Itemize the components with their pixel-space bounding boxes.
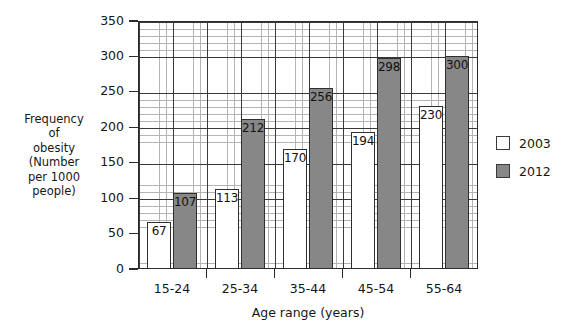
x-axis-tick-mark [274, 269, 275, 278]
bars-layer: 67107113212170256194298230300 [138, 21, 478, 269]
bar-value-label: 230 [420, 109, 442, 122]
x-axis-tick-mark [206, 269, 207, 278]
x-axis-title: Age range (years) [138, 305, 478, 320]
y-axis-tick-label: 50 [108, 225, 124, 240]
bar-group: 113212 [206, 21, 274, 269]
bar-value-label: 300 [446, 59, 468, 72]
bar-2012-25-34: 212 [241, 119, 265, 269]
y-axis-tick-mark [129, 20, 138, 21]
gray-square-icon [496, 164, 510, 178]
y-axis-tick-mark [129, 162, 138, 163]
bar-value-label: 67 [148, 225, 170, 238]
x-axis-category-label: 55-64 [410, 281, 478, 296]
bar-value-label: 107 [174, 196, 196, 209]
bar-2012-55-64: 300 [445, 56, 469, 269]
chart-legend: 20032012 [496, 129, 558, 185]
y-axis-tick-mark [129, 198, 138, 199]
bar-value-label: 212 [242, 122, 264, 135]
y-axis-tick-label: 350 [100, 13, 124, 28]
y-axis-tick-label: 0 [116, 261, 124, 276]
bar-value-label: 113 [216, 192, 238, 205]
y-axis-tick-mark [129, 56, 138, 57]
legend-item-2003: 2003 [496, 129, 558, 157]
x-axis-category-label: 25-34 [206, 281, 274, 296]
bar-group: 194298 [342, 21, 410, 269]
bar-value-label: 194 [352, 135, 374, 148]
y-axis-tick-mark [129, 91, 138, 92]
bar-value-label: 298 [378, 61, 400, 74]
x-axis-tick-mark [410, 269, 411, 278]
bar-2003-35-44: 170 [283, 149, 307, 269]
bar-2012-45-54: 298 [377, 58, 401, 269]
bar-value-label: 170 [284, 152, 306, 165]
bar-group: 67107 [138, 21, 206, 269]
legend-label: 2012 [519, 164, 551, 179]
legend-label: 2003 [519, 136, 551, 151]
bar-2003-25-34: 113 [215, 189, 239, 269]
bar-2012-35-44: 256 [309, 88, 333, 269]
bar-2003-55-64: 230 [419, 106, 443, 269]
x-axis-category-label: 45-54 [342, 281, 410, 296]
bar-2012-15-24: 107 [173, 193, 197, 269]
x-axis-category-label: 35-44 [274, 281, 342, 296]
bar-value-label: 256 [310, 91, 332, 104]
y-axis-tick-label: 100 [100, 190, 124, 205]
x-axis-tick-mark [342, 269, 343, 278]
y-axis-tick-label: 250 [100, 83, 124, 98]
bar-2003-15-24: 67 [147, 222, 171, 269]
y-axis-tick-label: 300 [100, 48, 124, 63]
y-axis-title: Frequency of obesity (Number per 1000 pe… [8, 112, 100, 198]
y-axis-tick-label: 150 [100, 154, 124, 169]
y-axis-tick-mark [129, 268, 138, 269]
bar-group: 170256 [274, 21, 342, 269]
x-axis-category-label: 15-24 [138, 281, 206, 296]
bar-chart-figure: Frequency of obesity (Number per 1000 pe… [0, 0, 563, 334]
bar-2003-45-54: 194 [351, 132, 375, 269]
bar-group: 230300 [410, 21, 478, 269]
y-axis-tick-label: 200 [100, 119, 124, 134]
y-axis-tick-mark [129, 127, 138, 128]
legend-item-2012: 2012 [496, 157, 558, 185]
white-square-icon [496, 136, 510, 150]
y-axis-tick-mark [129, 233, 138, 234]
